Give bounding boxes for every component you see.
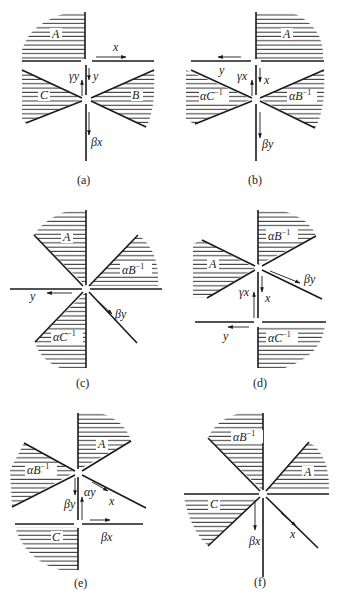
region-f-aB (208, 413, 263, 491)
label-b-x: x (263, 73, 270, 87)
caption-f: (f) (254, 575, 266, 589)
label-f-beta-x: βx (248, 534, 261, 548)
panel-b: A y γx x αC−1 αB−1 βy (b) (186, 12, 324, 187)
label-b-A: A (282, 27, 291, 41)
region-c-aB (89, 235, 158, 286)
caption-d: (d) (253, 376, 267, 390)
caption-b: (b) (248, 173, 262, 187)
label-d-y: y (222, 329, 229, 343)
region-f-A (266, 442, 329, 491)
label-a-C: C (40, 88, 49, 102)
label-f-A: A (303, 465, 312, 479)
panel-f: αB−1 A C βx x (f) (184, 413, 329, 589)
figure-six-panel-diagram: A x γy y C B βx (a) A y γx x αC−1 (0, 0, 337, 600)
label-e-x: x (108, 494, 115, 508)
label-e-beta-y: βy (63, 497, 76, 511)
label-b-y: y (218, 63, 225, 77)
caption-c: (c) (76, 376, 89, 390)
label-a-x: x (112, 40, 119, 54)
label-d-A: A (208, 257, 217, 271)
region-e-C (15, 527, 78, 570)
label-b-gamma-x: γx (237, 69, 248, 83)
label-d-beta-y: βy (303, 272, 316, 286)
label-c-y: y (29, 289, 36, 303)
label-b-beta-y: βy (261, 137, 274, 151)
panel-c: A αB−1 y βy αC−1 (c) (10, 210, 162, 390)
region-c-A (34, 210, 86, 286)
label-c-beta-y: βy (114, 307, 127, 321)
caption-a: (a) (77, 173, 90, 187)
label-a-B: B (132, 88, 140, 102)
panel-a: A x γy y C B βx (a) (22, 12, 154, 187)
panel-d: αB−1 A βy γx x y αC−1 (d) (193, 210, 326, 390)
label-f-x: x (289, 527, 296, 541)
label-a-A: A (51, 27, 60, 41)
label-f-C: C (210, 497, 219, 511)
label-e-beta-x: βx (100, 530, 113, 544)
label-d-gamma-x: γx (239, 285, 250, 299)
label-c-A: A (62, 230, 71, 244)
label-e-A: A (97, 437, 106, 451)
label-a-y: y (92, 69, 99, 83)
label-e-C: C (52, 530, 61, 544)
label-a-beta-x: βx (90, 135, 103, 149)
label-e-alpha-y: αy (84, 485, 96, 499)
caption-e: (e) (74, 576, 87, 590)
label-d-x: x (264, 291, 271, 305)
label-a-gamma-y: γy (69, 69, 80, 83)
panel-e: A αB−1 βy αy x C βx (e) (10, 413, 146, 590)
